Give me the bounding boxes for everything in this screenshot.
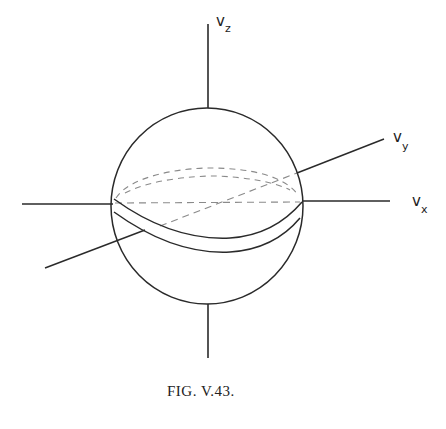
vx-label: v x	[412, 192, 428, 216]
sphere-outline	[111, 108, 303, 304]
band-front-lower	[114, 212, 300, 252]
vy-axis-hidden	[160, 173, 297, 226]
vz-label: v z	[216, 12, 231, 35]
vx-axis-hidden	[115, 202, 300, 203]
vy-axis-lower	[45, 230, 145, 268]
svg-text:y: y	[402, 140, 409, 153]
figure-caption: FIG. V.43.	[167, 383, 235, 399]
svg-text:v: v	[393, 128, 402, 146]
svg-text:v: v	[412, 192, 421, 210]
vy-axis-upper	[297, 139, 384, 173]
band-back-inner-dashed	[125, 176, 290, 193]
svg-text:z: z	[225, 22, 231, 35]
velocity-sphere-diagram: v z v y v x FIG. V.43.	[0, 0, 446, 429]
svg-text:x: x	[421, 203, 428, 216]
band-front-upper	[114, 199, 302, 238]
svg-text:v: v	[216, 12, 225, 30]
vy-label: v y	[393, 128, 409, 153]
